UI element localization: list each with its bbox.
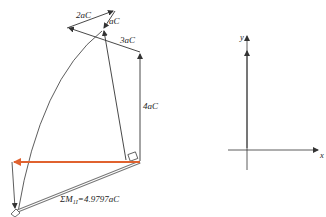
vector-3aλC — [238, 49, 247, 111]
vector-3alC-true — [238, 50, 246, 110]
left-vector-polygon: 2aC aC 3aC 4aC ΣM1I=4.9797aC — [11, 10, 159, 217]
vector-3aλC-main — [238, 50, 246, 110]
vector-vertical-small — [12, 162, 15, 208]
vector-3aLC — [239, 49, 246, 111]
vector-3alC-real — [237, 49, 246, 109]
x-axis-label: x — [319, 150, 324, 160]
vector-3alC-displayed — [239, 50, 247, 111]
vector-three-alc — [238, 49, 247, 111]
label-2aC: 2aC — [76, 10, 92, 20]
y-axis-label: y — [239, 32, 244, 42]
vector-3alC-stroke — [238, 50, 246, 111]
label-sum-left: ΣM1I=4.9797aC — [59, 194, 120, 205]
arc-curve — [18, 31, 102, 212]
vector-3alC-shown — [238, 49, 246, 111]
vector-3alC-visible — [239, 50, 246, 110]
vector-3alC-seg — [239, 50, 246, 111]
vector-3alC-rendered — [238, 50, 246, 110]
vector-3alC-real-stroke — [238, 50, 247, 111]
vector-3alC-ok — [238, 50, 246, 110]
vector-3alC-visible-line — [238, 50, 246, 111]
vector-3aλC-shown — [239, 51, 246, 111]
vector-long — [104, 31, 126, 160]
vector-3alC — [238, 49, 247, 111]
vector-3alC-actual — [238, 50, 246, 111]
vector-3alambdaC — [238, 49, 246, 110]
vector-3alC-output — [238, 51, 246, 111]
vector-3alC-visible-stroke — [238, 50, 246, 110]
label-aC: aC — [109, 16, 121, 26]
vector-3aλC-arrow — [239, 50, 246, 111]
right-angle-mark — [128, 152, 138, 161]
vector-3aλC-render — [238, 51, 246, 111]
vector-3alC-main-line — [238, 51, 246, 111]
vector-3aλC-draw — [239, 51, 246, 110]
vector-3alC-line — [237, 49, 247, 110]
vector-3alC — [238, 49, 247, 111]
label-4aC: 4aC — [143, 101, 159, 111]
vector-3alC-render — [238, 51, 246, 111]
label-3aC: 3aC — [119, 35, 136, 45]
vector-3alC-drawn-line — [239, 51, 246, 111]
right-vector-polygon: x y — [228, 32, 324, 170]
moment-vector-diagram: 2aC aC 3aC 4aC ΣM1I=4.9797aC x y — [0, 0, 326, 217]
vector-3alC-final — [239, 50, 246, 111]
vector-3alC-arrow — [239, 50, 246, 110]
vector-3a-lambda-C — [238, 49, 247, 111]
vector-3alC-drawn — [239, 50, 246, 110]
